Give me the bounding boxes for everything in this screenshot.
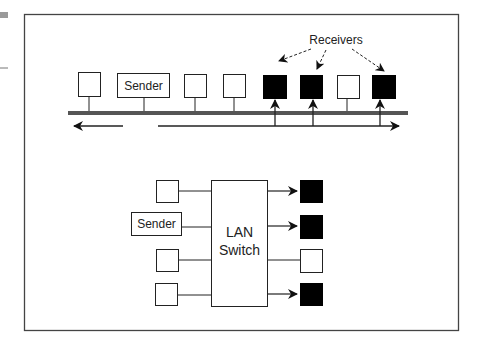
margin-block [0,12,8,18]
station-node [338,76,360,99]
receiver-pointer-3 [352,49,384,71]
station-node [185,75,207,98]
switched-lan-diagram: LAN Switch Sender [132,180,324,307]
receiver-pointer-1 [279,49,311,61]
station-node [301,250,323,273]
station-node [79,73,101,97]
station-node [224,75,246,98]
receiver-node [300,215,323,239]
receivers-label: Receivers [309,33,362,47]
station-node [156,284,178,306]
receiver-node [300,180,323,203]
station-node [157,250,179,272]
sender-label: Sender [137,217,176,231]
switch-label-line1: LAN [226,224,253,240]
receiver-pointer-2 [317,50,326,69]
receiver-node [372,75,396,99]
receiver-node [263,75,287,99]
sender-label: Sender [124,79,163,93]
station-node [157,181,179,203]
receiver-node [300,75,323,99]
shared-bus-diagram: Receivers Sender [68,33,408,126]
receiver-node [300,283,323,306]
diagram-canvas: Receivers Sender LAN Switch [0,0,480,348]
shared-bus [68,111,408,115]
switch-label-line2: Switch [219,242,260,258]
